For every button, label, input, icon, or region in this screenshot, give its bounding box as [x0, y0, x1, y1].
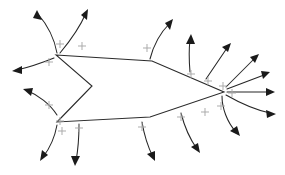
arrowhead-4: [12, 66, 22, 74]
field-line-6: [40, 125, 57, 161]
field-line-14: [226, 54, 259, 87]
charge-plus-11: [201, 108, 209, 116]
arrowhead-9: [191, 143, 200, 153]
charge-plus-1: [56, 40, 64, 48]
diagram-canvas: [0, 0, 285, 175]
arrowhead-5: [23, 88, 33, 96]
charge-plus-15: [219, 82, 227, 90]
charge-plus-2: [78, 42, 86, 50]
arrowhead-16: [186, 34, 195, 44]
arrowhead-1: [33, 10, 42, 20]
arrowhead-15: [222, 43, 231, 52]
field-line-16: [186, 34, 195, 72]
field-line-15: [206, 43, 231, 79]
arrowhead-7: [71, 156, 80, 166]
arrowhead-8: [147, 151, 155, 161]
field-line-10: [222, 96, 240, 136]
arrowhead-12: [266, 88, 275, 96]
charge-plus-9: [138, 123, 146, 131]
field-line-8: [142, 122, 155, 161]
field-line-4: [12, 58, 54, 74]
charge-plus-16: [228, 89, 236, 97]
charge-plus-7: [58, 127, 66, 135]
charged-conductor-outline: [56, 55, 224, 122]
conductor-boundary: [56, 55, 224, 122]
field-line-3: [150, 19, 173, 59]
field-lines-group: [12, 9, 276, 166]
charge-plus-10: [177, 113, 185, 121]
field-line-12: [227, 88, 275, 96]
charge-plus-3: [143, 44, 151, 52]
arrowhead-11: [266, 110, 276, 118]
field-line-diagram: [0, 0, 285, 175]
field-line-1: [33, 10, 57, 53]
arrowhead-10: [230, 126, 240, 136]
arrowhead-13: [261, 71, 270, 79]
charge-plus-6: [56, 117, 64, 125]
field-line-5: [23, 88, 57, 115]
field-line-11: [226, 95, 276, 118]
field-line-9: [181, 113, 200, 153]
charge-plus-8: [75, 124, 83, 132]
arrowhead-2: [81, 9, 88, 20]
arrowhead-3: [165, 19, 173, 30]
